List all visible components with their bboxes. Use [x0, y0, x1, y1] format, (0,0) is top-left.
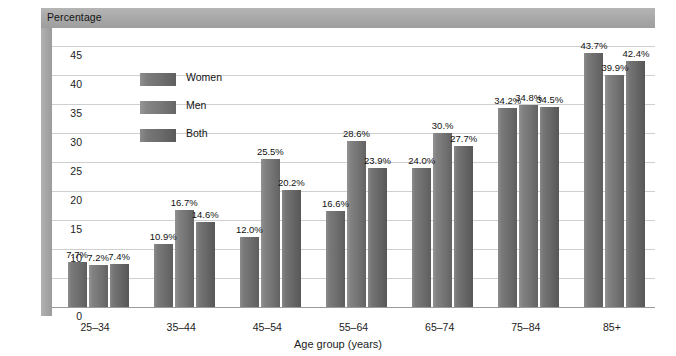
bar-both-75–84[interactable] [540, 107, 559, 307]
bar-value-label: 10.9% [150, 231, 177, 242]
y-axis-tick-label: 25 [52, 165, 82, 177]
left-band [41, 28, 52, 316]
bar-value-label: 16.6% [322, 198, 349, 209]
bar-women-35–44[interactable] [154, 244, 173, 307]
y-axis-tick-label: 20 [52, 194, 82, 206]
legend-label-men: Men [186, 99, 206, 111]
bar-value-label: 7.2% [87, 252, 109, 263]
bar-value-label: 14.6% [192, 209, 219, 220]
bar-women-55–64[interactable] [326, 211, 345, 307]
bar-both-35–44[interactable] [196, 222, 215, 307]
legend-swatch-men [140, 101, 176, 114]
bar-women-25–34[interactable] [68, 262, 87, 307]
bar-value-label: 7.4% [108, 251, 130, 262]
bar-value-label: 39.9% [601, 62, 628, 73]
x-axis-tick-label: 65–74 [425, 321, 454, 333]
bar-value-label: 16.7% [171, 197, 198, 208]
bar-men-35–44[interactable] [175, 210, 194, 307]
bar-value-label: 30.% [432, 120, 454, 131]
x-axis-tick-label: 25–34 [80, 321, 109, 333]
legend-swatch-both [140, 129, 176, 142]
y-axis-tick-label: 35 [52, 107, 82, 119]
bar-value-label: 24.0% [408, 155, 435, 166]
bar-value-label: 25.5% [257, 146, 284, 157]
gridline [52, 46, 655, 47]
bar-both-25–34[interactable] [110, 264, 129, 307]
bar-both-65–74[interactable] [454, 146, 473, 307]
x-axis-tick-label: 45–54 [253, 321, 282, 333]
x-axis-tick-label: 85+ [603, 321, 621, 333]
bar-value-label: 7.7% [66, 249, 88, 260]
plot-area: 051015202530354045 7.7%7.2%7.4%10.9%16.7… [52, 28, 655, 316]
bar-value-label: 12.0% [236, 224, 263, 235]
y-axis-tick-label: 0 [52, 310, 82, 322]
bar-value-label: 27.7% [450, 133, 477, 144]
bar-women-75–84[interactable] [498, 108, 517, 307]
bar-value-label: 43.7% [580, 40, 607, 51]
bar-value-label: 20.2% [278, 177, 305, 188]
x-axis-title: Age group (years) [0, 338, 676, 350]
bar-men-85+[interactable] [605, 75, 624, 307]
y-axis-tick-label: 45 [52, 49, 82, 61]
bar-men-65–74[interactable] [433, 133, 452, 307]
bar-women-85+[interactable] [584, 53, 603, 307]
bar-value-label: 34.5% [536, 94, 563, 105]
bar-value-label: 42.4% [622, 48, 649, 59]
bar-women-65–74[interactable] [412, 168, 431, 307]
bar-value-label: 23.9% [364, 155, 391, 166]
chart-screenshot: Percentage 051015202530354045 7.7%7.2%7.… [0, 0, 676, 356]
chart-title: Percentage [47, 11, 102, 23]
bar-women-45–54[interactable] [240, 237, 259, 307]
x-axis-tick-label: 35–44 [167, 321, 196, 333]
legend-label-women: Women [186, 71, 222, 83]
bar-value-label: 28.6% [343, 128, 370, 139]
bar-both-85+[interactable] [626, 61, 645, 307]
legend-label-both: Both [186, 127, 208, 139]
y-axis-tick-label: 15 [52, 223, 82, 235]
bar-men-25–34[interactable] [89, 265, 108, 307]
y-axis-tick-label: 30 [52, 136, 82, 148]
bar-both-45–54[interactable] [282, 190, 301, 307]
y-axis-tick-label: 40 [52, 78, 82, 90]
bar-both-55–64[interactable] [368, 168, 387, 307]
gridline [52, 307, 655, 308]
bar-men-75–84[interactable] [519, 105, 538, 307]
x-axis-tick-label: 75–84 [511, 321, 540, 333]
x-axis-tick-label: 55–64 [339, 321, 368, 333]
legend-swatch-women [140, 73, 176, 86]
header-band: Percentage [41, 8, 655, 28]
